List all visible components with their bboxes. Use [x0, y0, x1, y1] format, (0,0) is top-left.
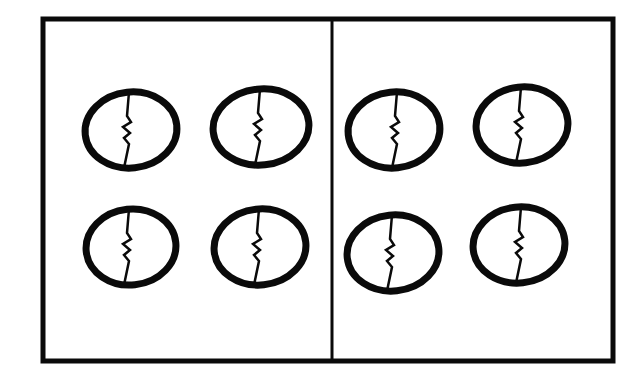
right-group — [343, 82, 571, 295]
cracked-egg-icon — [82, 205, 179, 290]
eggs-layer — [81, 82, 571, 295]
cracked-egg-icon — [81, 87, 180, 172]
box-frame — [43, 19, 613, 361]
egg-groups-diagram — [0, 0, 641, 376]
cracked-egg-icon — [469, 202, 568, 287]
cracked-egg-icon — [210, 204, 309, 289]
cracked-egg-icon — [344, 87, 443, 172]
cracked-egg-icon — [472, 82, 571, 167]
cracked-egg-icon — [343, 210, 442, 295]
left-group — [81, 84, 312, 289]
cracked-egg-icon — [209, 84, 312, 170]
